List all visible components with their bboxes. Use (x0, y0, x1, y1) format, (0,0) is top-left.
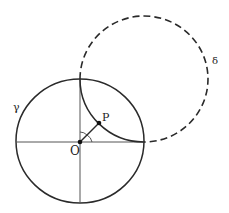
angle-arc-lower (87, 135, 92, 142)
label-delta: δ (212, 56, 218, 66)
angle-arc-upper (80, 132, 87, 135)
label-point-P: P (102, 112, 109, 123)
label-origin: O (70, 145, 80, 157)
diagram-figure: O P γ δ (0, 0, 229, 213)
point-P-dot (97, 121, 102, 126)
label-gamma: γ (13, 102, 20, 113)
diagram-canvas (0, 0, 229, 213)
